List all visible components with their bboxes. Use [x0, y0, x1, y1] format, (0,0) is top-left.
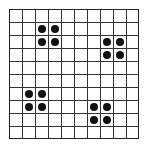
grid-dot — [25, 90, 33, 98]
grid-dot — [25, 103, 33, 111]
grid-dot — [103, 51, 111, 59]
grid-dot — [38, 25, 46, 33]
grid-dot — [51, 25, 59, 33]
grid-dot — [103, 38, 111, 46]
grid-dot — [38, 103, 46, 111]
grid-dot — [90, 116, 98, 124]
grid-dot — [116, 38, 124, 46]
grid-dot — [103, 116, 111, 124]
grid-dot — [103, 103, 111, 111]
dot-grid — [9, 9, 139, 139]
grid-dot — [116, 51, 124, 59]
grid-dot — [90, 103, 98, 111]
grid-dot — [38, 90, 46, 98]
grid-dot — [38, 38, 46, 46]
grid-dot — [51, 38, 59, 46]
